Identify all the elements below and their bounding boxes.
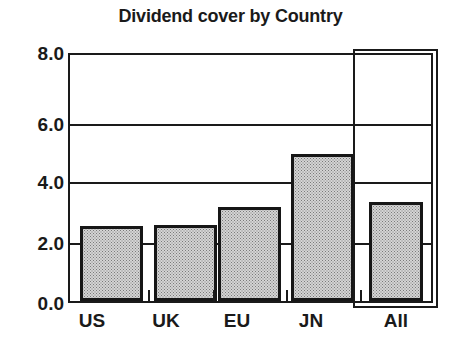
y-axis: 8.0 6.0 4.0 2.0 0.0	[0, 0, 64, 351]
x-label-eu: EU	[203, 311, 271, 330]
y-tick-label-2: 2.0	[4, 234, 64, 253]
gridline-4	[70, 182, 431, 184]
x-label-all: All	[362, 311, 430, 330]
y-tick-label-0: 0.0	[4, 294, 64, 313]
x-label-uk: UK	[132, 311, 200, 330]
x-label-jn: JN	[277, 311, 345, 330]
dividend-cover-bar-chart: Dividend cover by Country 8.0 6.0 4.0 2.…	[0, 0, 461, 351]
bar-all	[369, 202, 423, 301]
x-tick-4	[360, 290, 362, 301]
bar-us	[80, 226, 143, 301]
gridline-6	[70, 124, 431, 126]
x-tick-1	[148, 290, 150, 301]
x-tick-2	[213, 290, 215, 301]
bar-uk	[154, 225, 217, 301]
y-tick-label-6: 6.0	[4, 115, 64, 134]
plot-area	[68, 53, 433, 303]
y-tick-label-8: 8.0	[4, 44, 64, 63]
chart-title: Dividend cover by Country	[0, 6, 461, 27]
x-tick-3	[286, 290, 288, 301]
x-label-us: US	[58, 311, 126, 330]
bar-jn	[291, 154, 354, 301]
bar-eu	[218, 207, 281, 301]
y-tick-label-4: 4.0	[4, 173, 64, 192]
